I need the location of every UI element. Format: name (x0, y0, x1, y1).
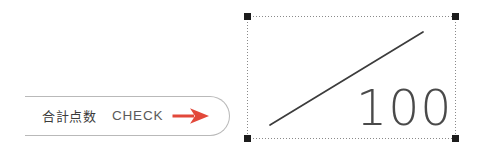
check-badge[interactable]: 合計点数 CHECK (25, 96, 230, 136)
check-label: CHECK (112, 109, 163, 123)
selected-object-frame[interactable]: 100 (247, 16, 456, 139)
resize-handle-bottom-left[interactable] (244, 135, 251, 142)
drawing-canvas: 合計点数 CHECK 100 (0, 0, 481, 162)
arrow-right-icon (172, 107, 210, 125)
resize-handle-top-left[interactable] (244, 13, 251, 20)
total-score-label: 合計点数 (42, 110, 96, 123)
score-value: 100 (356, 84, 453, 133)
resize-handle-top-right[interactable] (452, 13, 459, 20)
resize-handle-bottom-right[interactable] (452, 135, 459, 142)
